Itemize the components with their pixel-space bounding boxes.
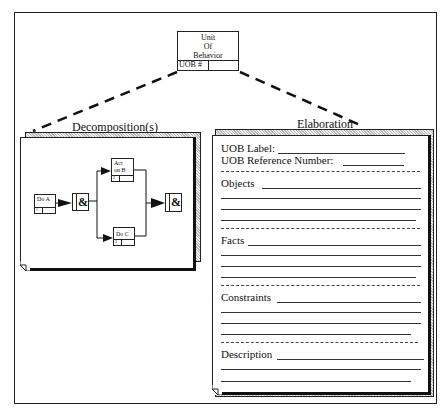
block-do-c: Do C 3 [113,227,135,246]
constraints-field[interactable] [277,302,421,303]
objects-field-line[interactable] [221,198,421,199]
and-junction-1: & [72,193,89,211]
constraints-field-line[interactable] [221,312,421,313]
section-divider [221,285,420,286]
constraints-field-line[interactable] [221,334,411,335]
facts-field[interactable] [248,245,421,246]
uob-label-field-label: UOB Label: [221,142,275,154]
objects-field[interactable] [262,188,421,189]
facts-label: Facts [221,234,244,246]
page-curl-icon [212,385,222,395]
constraints-field-line[interactable] [221,323,421,324]
objects-label: Objects [221,177,255,189]
description-field-line[interactable] [221,381,411,382]
uob-ref-number-label: UOB Reference Number: [221,154,333,166]
objects-field-line[interactable] [221,220,416,221]
and-junction-2: & [165,193,182,212]
facts-field-line[interactable] [221,255,421,256]
section-divider [221,228,420,229]
objects-field-line[interactable] [221,209,421,210]
block-act-on-b-line2: on B [114,167,126,174]
uob-ref-number-field[interactable] [343,165,404,166]
block-do-c-label: Do C [116,231,129,238]
facts-field-line[interactable] [221,266,421,267]
description-label: Description [221,348,272,360]
facts-field-line[interactable] [221,277,416,278]
block-act-on-b-line1: Act [114,160,123,167]
block-do-a-label: Do A [37,196,50,203]
description-field[interactable] [277,359,424,360]
constraints-label: Constraints [221,291,271,303]
block-act-on-b: Act on B 2 [111,158,134,182]
section-divider [221,171,420,172]
description-field-line[interactable] [221,369,421,370]
section-divider [221,342,418,343]
block-do-a: Do A 1 [34,194,56,214]
